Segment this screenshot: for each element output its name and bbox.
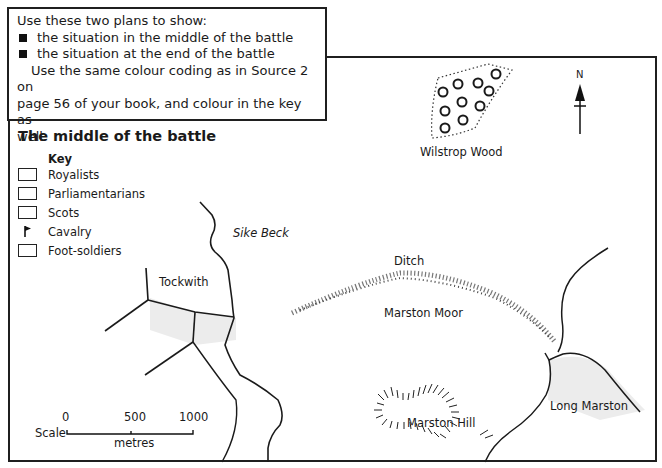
instructions-box: Use these two plans to show: the situati… [7,7,327,121]
label-marston-moor: Marston Moor [384,306,463,320]
instructions-body-line: page 56 of your book, and colour in the … [17,96,317,129]
scale-unit: metres [114,436,154,450]
map-key: Key Royalists Parliamentarians Scots Cav… [18,153,145,260]
scale-tick-0: 0 [62,410,69,424]
instruction-bullet: the situation in the middle of the battl… [17,30,317,47]
key-item-cavalry: Cavalry [18,222,145,241]
colour-box[interactable] [18,187,37,200]
instructions-body-line: well. [17,129,317,146]
north-arrow-icon [574,84,586,134]
instructions-body-line: Use the same colour coding as in Source … [17,63,317,96]
key-item-foot-soldiers: Foot-soldiers [18,241,145,260]
north-label: N [576,69,583,80]
square-bullet-icon [19,34,27,42]
label-long-marston: Long Marston [550,399,628,413]
key-heading: Key [48,153,145,165]
label-ditch: Ditch [394,254,424,268]
key-item-scots: Scots [18,203,145,222]
colour-box[interactable] [18,244,37,257]
scale-bar [67,430,193,434]
label-marston-hill: Marston Hill [407,416,475,430]
scale-tick-1000: 1000 [179,410,208,424]
key-item-royalists: Royalists [18,165,145,184]
label-wilstrop-wood: Wilstrop Wood [420,145,503,159]
tree-icons [439,70,501,133]
scale-tick-500: 500 [124,410,146,424]
key-item-parliamentarians: Parliamentarians [18,184,145,203]
instructions-intro: Use these two plans to show: [17,13,317,30]
label-tockwith: Tockwith [159,275,209,289]
square-bullet-icon [19,50,27,58]
scale-label: Scale [35,426,66,440]
colour-box[interactable] [18,206,37,219]
flag-icon [18,225,37,238]
colour-box[interactable] [18,168,37,181]
label-sike-beck: Sike Beck [233,226,289,240]
instruction-bullet: the situation at the end of the battle [17,46,317,63]
